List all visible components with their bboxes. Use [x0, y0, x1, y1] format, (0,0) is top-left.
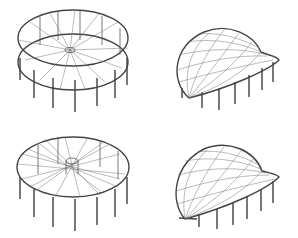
panel-ring-truss-crossed — [0, 119, 149, 238]
saddle-membrane-variant-drawing — [149, 119, 298, 238]
saddle-membrane-drawing — [149, 0, 298, 119]
ring-truss-radial-drawing — [0, 0, 149, 119]
columns — [20, 177, 127, 231]
ring-truss-crossed-drawing — [0, 119, 149, 238]
panel-ring-truss-radial — [0, 0, 149, 119]
panel-saddle-membrane-variant — [149, 119, 298, 238]
panel-saddle-membrane — [149, 0, 298, 119]
